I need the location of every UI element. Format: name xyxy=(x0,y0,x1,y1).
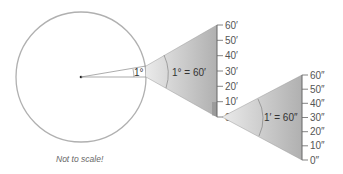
minute-subticks xyxy=(212,103,217,115)
minute-tick-label: 60′ xyxy=(225,20,238,31)
degree-equation: 1° = 60′ xyxy=(172,67,206,78)
minute-tick-label: 20′ xyxy=(225,81,238,92)
angle-subdivision-diagram: 60′ 50′ 40′ 30′ 20′ 10′ 0′ 1° = 60′ 60″ … xyxy=(0,0,343,174)
minute-tick-label: 40′ xyxy=(225,50,238,61)
second-tick-label: 40″ xyxy=(310,98,325,109)
second-ticks xyxy=(302,75,308,160)
second-tick-label: 50″ xyxy=(310,84,325,95)
second-tick-label: 20″ xyxy=(310,126,325,137)
minute-equation: 1′ = 60″ xyxy=(264,112,298,123)
second-tick-label: 0″ xyxy=(310,155,320,166)
second-tick-label: 30″ xyxy=(310,112,325,123)
minute-ticks xyxy=(217,25,223,117)
not-to-scale-caption: Not to scale! xyxy=(56,154,104,164)
second-tick-label: 10″ xyxy=(310,140,325,151)
minute-tick-label: 30′ xyxy=(225,66,238,77)
minute-tick-label: 10′ xyxy=(225,96,238,107)
one-degree-label: 1° xyxy=(134,67,144,78)
second-tick-label: 60″ xyxy=(310,70,325,81)
minute-tick-label: 50′ xyxy=(225,35,238,46)
